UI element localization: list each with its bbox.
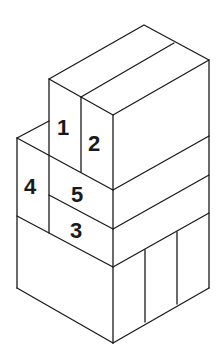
label-2: 2 [88,131,100,156]
label-1: 1 [57,115,69,140]
block-labels: 1 2 4 5 3 [24,115,100,243]
label-5: 5 [71,182,83,207]
isometric-block-diagram: 1 2 4 5 3 [0,0,223,362]
block-drawing: 1 2 4 5 3 [0,0,223,362]
label-4: 4 [24,174,37,199]
label-3: 3 [70,218,82,243]
